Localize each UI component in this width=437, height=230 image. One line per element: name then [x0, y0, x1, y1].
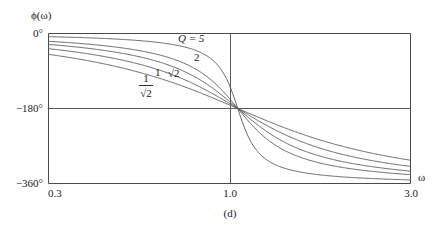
ytick-0: 0° [33, 27, 43, 39]
phase-curve-1 [49, 49, 411, 167]
phase-curve-2 [49, 41, 411, 174]
x-axis-label: ω [418, 171, 425, 183]
y-axis-label: ϕ(ω) [31, 9, 52, 22]
curve-label-q5: Q = 5 [178, 32, 205, 44]
xtick-30: 3.0 [404, 187, 418, 199]
inv-sqrt2-numerator: 1 [143, 72, 149, 84]
curve-label-q1: 1 [155, 66, 161, 78]
xtick-10: 1.0 [223, 187, 237, 199]
ytick-minus360: −360° [16, 177, 43, 189]
plot-svg: 0° −180° −360° 0.3 1.0 3.0 ϕ(ω) ω Q = 5 … [0, 0, 437, 230]
curve-label-q2: 2 [194, 51, 200, 63]
figure-caption: (d) [224, 207, 237, 220]
ytick-minus180: −180° [16, 102, 43, 114]
curve-label-sqrt2: √2 [168, 67, 180, 79]
xtick-03: 0.3 [48, 187, 62, 199]
inv-sqrt2-denominator: √2 [140, 87, 152, 99]
phase-curve-12 [49, 54, 411, 160]
phase-plot-figure: 0° −180° −360° 0.3 1.0 3.0 ϕ(ω) ω Q = 5 … [0, 0, 437, 230]
